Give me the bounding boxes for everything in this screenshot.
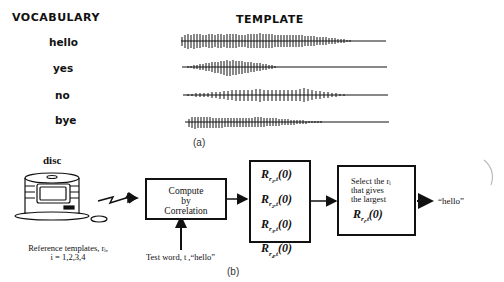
compute-line1: Compute xyxy=(147,186,225,196)
compute-line3: Correlation xyxy=(147,206,225,216)
select-term: Rri,t(0) xyxy=(353,206,414,231)
test-word-label: Test word, t ,“hello” xyxy=(146,252,215,262)
output-label: “hello” xyxy=(438,196,464,206)
reference-caption-line2: i = 1,2,3,4 xyxy=(13,253,123,262)
select-line3: the largest xyxy=(351,195,414,204)
correlation-term-1: Rr1,t(0) xyxy=(261,166,309,191)
computer-disc-icon xyxy=(15,173,107,222)
waveform-bye xyxy=(185,117,389,129)
waveform-hello xyxy=(181,33,386,49)
lightning-arrow xyxy=(98,193,137,203)
compute-correlation-box: Compute by Correlation xyxy=(145,178,227,220)
waveform-yes xyxy=(182,60,387,76)
reference-templates-caption: Reference templates, rᵢ, i = 1,2,3,4 xyxy=(13,244,123,262)
caption-a: (a) xyxy=(193,137,205,148)
correlation-term-2: Rr2,t(0) xyxy=(261,191,309,216)
correlation-terms-box: Rr1,t(0) Rr2,t(0) Rr3,t(0) Rr4,t(0) xyxy=(249,160,311,243)
disc-label: disc xyxy=(43,154,61,166)
select-largest-box: Select the rᵢ that gives the largest Rri… xyxy=(337,165,416,236)
waveform-no xyxy=(183,88,388,102)
compute-line2: by xyxy=(147,196,225,206)
caption-b: (b) xyxy=(227,266,239,277)
correlation-term-4: Rr4,t(0) xyxy=(261,240,309,265)
correlation-term-3: Rr3,t(0) xyxy=(261,216,309,241)
